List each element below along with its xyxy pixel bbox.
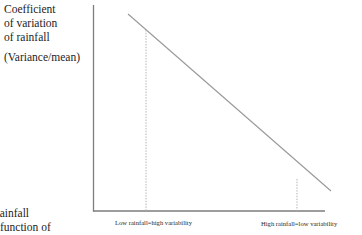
tick-label-low-rainfall: Low rainfall=high variability: [115, 218, 192, 227]
tick-label-high-rainfall: High rainfall=low variability: [261, 219, 337, 228]
plot-area: [0, 0, 362, 235]
trend-line: [128, 14, 331, 191]
rainfall-variability-chart: Coefficient of variation of rainfall (Va…: [0, 0, 362, 235]
